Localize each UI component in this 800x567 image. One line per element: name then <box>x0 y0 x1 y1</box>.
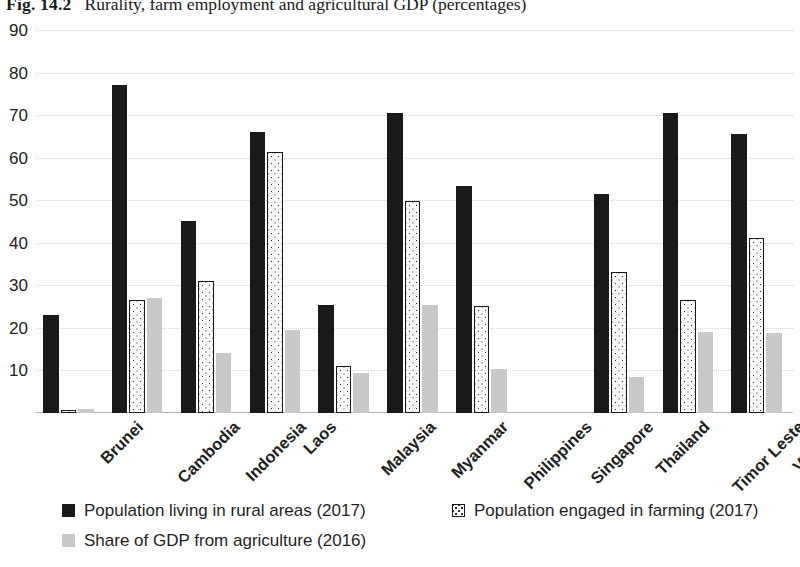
bar-group <box>36 30 105 413</box>
bar-rural <box>112 85 128 413</box>
y-tick-label-80: 80 <box>9 64 28 81</box>
x-tick-label: Thailand <box>653 418 713 478</box>
legend-label-gdp: Share of GDP from agriculture (2016) <box>84 532 366 549</box>
bar-group <box>105 30 174 413</box>
bar-group <box>311 30 380 413</box>
bar-gdp <box>285 330 301 413</box>
figure-caption-text: Rurality, farm employment and agricultur… <box>84 0 526 14</box>
bar-rural <box>43 315 59 413</box>
bar-rural <box>387 113 403 413</box>
legend-row-1: Population living in rural areas (2017) … <box>62 497 792 525</box>
bar-rural <box>318 305 334 413</box>
bar-rural <box>731 134 747 413</box>
y-tick-label-60: 60 <box>9 149 28 166</box>
legend-label-farming: Population engaged in farming (2017) <box>474 502 758 519</box>
bar-gdp <box>147 298 163 413</box>
bar-farming <box>680 300 696 413</box>
y-tick-label-50: 50 <box>9 192 28 209</box>
bar-group <box>380 30 449 413</box>
dotted-white-swatch-icon <box>452 504 465 517</box>
bar-group <box>587 30 656 413</box>
bar-farming <box>61 410 77 413</box>
x-tick-label: Singapore <box>588 418 657 487</box>
bar-group <box>242 30 311 413</box>
bar-rural <box>663 113 679 413</box>
bar-group <box>518 30 587 413</box>
bar-farming <box>749 238 765 413</box>
y-tick-label-40: 40 <box>9 234 28 251</box>
figure-page: Fig. 14.2Rurality, farm employment and a… <box>0 0 800 567</box>
x-tick-label: Indonesia <box>243 418 309 484</box>
legend-row-2: Share of GDP from agriculture (2016) <box>62 527 792 555</box>
bar-gdp <box>629 377 645 413</box>
x-tick-label: Timor Leste <box>729 418 800 496</box>
bar-rural <box>594 194 610 413</box>
bar-rural <box>181 221 197 413</box>
bars-layer <box>36 30 793 413</box>
bar-gdp <box>698 332 714 413</box>
bar-group <box>449 30 518 413</box>
bar-gdp <box>766 333 782 413</box>
bar-group <box>724 30 793 413</box>
bar-rural <box>456 186 472 413</box>
figure-number: Fig. 14.2 <box>6 0 71 14</box>
x-tick-label: Myanmar <box>448 418 511 481</box>
x-tick-label: Laos <box>300 418 339 457</box>
bar-group <box>174 30 243 413</box>
bar-gdp <box>78 409 94 413</box>
chart-legend: Population living in rural areas (2017) … <box>62 497 792 559</box>
y-axis: 102030405060708090 <box>0 30 32 413</box>
bar-gdp <box>216 353 232 413</box>
x-tick-label: Cambodia <box>175 418 243 486</box>
bar-farming <box>611 272 627 413</box>
bar-gdp <box>491 369 507 413</box>
x-tick-label: Brunei <box>98 418 147 467</box>
legend-item-gdp[interactable]: Share of GDP from agriculture (2016) <box>62 527 366 553</box>
solid-gray-swatch-icon <box>62 534 75 547</box>
bar-rural <box>250 132 266 413</box>
bar-farming <box>198 281 214 413</box>
x-tick-label: Philippines <box>521 418 595 492</box>
legend-label-rural: Population living in rural areas (2017) <box>84 502 366 519</box>
y-tick-label-30: 30 <box>9 277 28 294</box>
bar-group <box>655 30 724 413</box>
solid-black-swatch-icon <box>62 504 75 517</box>
legend-item-rural[interactable]: Population living in rural areas (2017) <box>62 497 366 523</box>
figure-caption: Fig. 14.2Rurality, farm employment and a… <box>6 0 796 16</box>
y-tick-label-10: 10 <box>9 362 28 379</box>
bar-gdp <box>422 305 438 413</box>
bar-farming <box>474 306 490 413</box>
x-tick-label: Malaysia <box>378 418 438 478</box>
bar-farming <box>267 152 283 413</box>
y-tick-label-20: 20 <box>9 319 28 336</box>
bar-farming <box>405 201 421 413</box>
x-axis: BruneiCambodiaIndonesiaLaosMalaysiaMyanm… <box>36 414 793 492</box>
legend-item-farming[interactable]: Population engaged in farming (2017) <box>452 497 758 523</box>
bar-gdp <box>353 373 369 413</box>
bar-farming <box>129 300 145 413</box>
bar-farming <box>336 366 352 413</box>
y-tick-label-70: 70 <box>9 107 28 124</box>
y-tick-label-90: 90 <box>9 22 28 39</box>
